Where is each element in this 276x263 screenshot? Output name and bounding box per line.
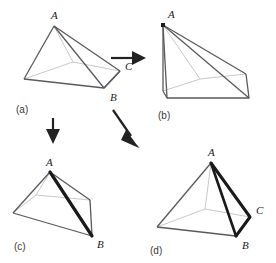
panel-a-visible-edges bbox=[24, 26, 120, 88]
panel-c-label-A: A bbox=[45, 156, 53, 168]
panel-b-apex-dot bbox=[161, 23, 165, 27]
panel-d-caption: (d) bbox=[150, 245, 162, 256]
panel-d: A C B (d) bbox=[150, 146, 264, 256]
panel-a: A C B (a) bbox=[16, 9, 133, 115]
panel-c: A B (c) bbox=[13, 156, 104, 252]
arrow-a-to-c bbox=[46, 118, 60, 144]
panel-d-label-C: C bbox=[256, 204, 264, 216]
panel-c-label-B: B bbox=[97, 238, 104, 250]
panel-b-label-A: A bbox=[167, 8, 175, 20]
arrow-a-to-d bbox=[113, 110, 140, 148]
panel-d-label-B: B bbox=[242, 239, 249, 251]
panel-c-highlight-AB bbox=[50, 172, 92, 236]
panel-c-caption: (c) bbox=[14, 241, 26, 252]
panel-a-label-B: B bbox=[110, 91, 117, 103]
panel-a-caption: (a) bbox=[16, 104, 28, 115]
panel-d-highlight-AB bbox=[211, 163, 236, 236]
pyramid-transformation-diagram: A C B (a) A (b) bbox=[0, 0, 276, 263]
figure-board: A C B (a) A (b) bbox=[0, 0, 276, 263]
panel-d-highlight-ACB bbox=[211, 163, 250, 236]
panel-a-label-A: A bbox=[50, 9, 58, 21]
panel-b: A (b) bbox=[158, 8, 249, 121]
panel-a-label-C: C bbox=[125, 60, 133, 72]
panel-d-label-A: A bbox=[207, 146, 215, 158]
panel-b-caption: (b) bbox=[158, 110, 170, 121]
